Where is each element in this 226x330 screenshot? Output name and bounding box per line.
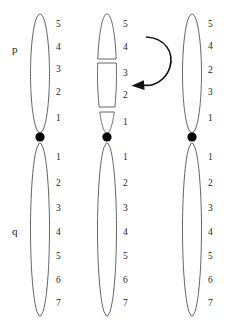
normal-chromosome-q-arm xyxy=(31,143,50,316)
inverted-chromosome-centromere xyxy=(187,132,196,141)
normal-chromosome-centromere xyxy=(35,132,44,141)
q-arm-label: q xyxy=(12,226,18,237)
inverted-chromosome-q-arm-label-1: 1 xyxy=(208,153,213,163)
broken-chromosome-q-arm-label-6: 6 xyxy=(123,276,128,286)
broken-chromosome-q-arm-label-7: 7 xyxy=(123,299,128,309)
normal-chromosome-q-arm-label-5: 5 xyxy=(56,252,61,262)
broken-chromosome-centromere xyxy=(102,132,111,141)
broken-chromosome-p-arm-fragment-2 xyxy=(98,63,117,107)
inversion-rotation-arrow xyxy=(132,37,172,90)
broken-chromosome-p-arm xyxy=(98,14,117,133)
normal-chromosome-q-arm-label-6: 6 xyxy=(56,276,61,286)
broken-chromosome-q-arm-label-1: 1 xyxy=(123,153,128,163)
inverted-chromosome-q-arm-label-3: 3 xyxy=(208,204,213,214)
inverted-chromosome-p-arm xyxy=(183,14,202,133)
inverted-chromosome-p-arm-outline xyxy=(183,14,202,133)
inverted-chromosome-q-arm-label-2: 2 xyxy=(208,179,213,189)
inverted-chromosome-q-arm-label-5: 5 xyxy=(208,252,213,262)
broken-chromosome-q-arm-outline xyxy=(98,143,117,316)
normal-chromosome-p-arm-label-5: 5 xyxy=(56,20,61,30)
inverted-chromosome-q-arm-label-4: 4 xyxy=(208,228,213,238)
normal-chromosome-p-arm xyxy=(31,14,50,133)
normal-chromosome-q-arm-label-1: 1 xyxy=(56,153,61,163)
chromosome-inversion-figure: p q 543211234567543211234567542311234567 xyxy=(0,0,226,330)
normal-chromosome-q-arm-label-7: 7 xyxy=(56,299,61,309)
inverted-chromosome-p-arm-label-1: 1 xyxy=(208,114,213,124)
broken-chromosome-p-arm-label-2: 2 xyxy=(123,91,128,101)
broken-chromosome-q-arm-label-5: 5 xyxy=(123,252,128,262)
inverted-chromosome-q-arm-label-7: 7 xyxy=(208,299,213,309)
broken-chromosome-q-arm-label-4: 4 xyxy=(123,228,128,238)
inverted-chromosome-p-arm-label-2: 2 xyxy=(208,66,213,76)
broken-chromosome-p-arm-label-5: 5 xyxy=(123,20,128,30)
normal-chromosome-p-arm-label-3: 3 xyxy=(56,65,61,75)
inverted-chromosome-q-arm-label-6: 6 xyxy=(208,276,213,286)
broken-chromosome-p-arm-label-4: 4 xyxy=(123,43,128,53)
normal-chromosome-q-arm-label-2: 2 xyxy=(56,179,61,189)
broken-chromosome-q-arm-label-3: 3 xyxy=(123,204,128,214)
normal-chromosome-p-arm-label-2: 2 xyxy=(56,88,61,98)
inverted-chromosome-p-arm-label-3: 3 xyxy=(208,88,213,98)
chromosome-diagram-canvas xyxy=(0,0,226,330)
arrow-arc xyxy=(143,37,171,85)
normal-chromosome-p-arm-label-1: 1 xyxy=(56,114,61,124)
broken-chromosome-p-arm-fragment-1 xyxy=(98,14,116,59)
broken-chromosome-q-arm-label-2: 2 xyxy=(123,179,128,189)
broken-chromosome-q-arm xyxy=(98,143,117,316)
broken-chromosome-p-arm-fragment-3 xyxy=(100,112,115,133)
normal-chromosome-p-arm-label-4: 4 xyxy=(56,43,61,53)
inverted-chromosome-p-arm-label-5: 5 xyxy=(208,20,213,30)
inverted-chromosome-p-arm-label-4: 4 xyxy=(208,42,213,52)
normal-chromosome-q-arm-label-3: 3 xyxy=(56,204,61,214)
normal-chromosome-p-arm-outline xyxy=(31,14,50,133)
p-arm-label: p xyxy=(12,44,18,55)
arrowhead-icon xyxy=(132,80,145,90)
normal-chromosome-q-arm-outline xyxy=(31,143,50,316)
normal-chromosome-q-arm-label-4: 4 xyxy=(56,228,61,238)
broken-chromosome-p-arm-label-3: 3 xyxy=(123,69,128,79)
broken-chromosome-p-arm-label-1: 1 xyxy=(123,118,128,128)
inverted-chromosome-q-arm-outline xyxy=(183,143,202,316)
inverted-chromosome-q-arm xyxy=(183,143,202,316)
